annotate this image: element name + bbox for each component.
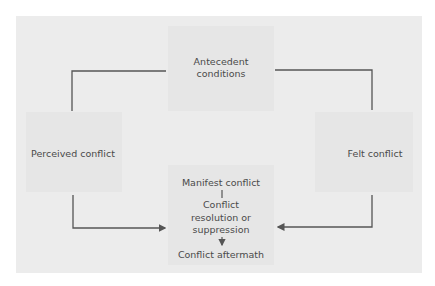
resolution-line1: Conflict <box>168 199 274 212</box>
node-antecedent-conditions: Antecedent conditions <box>168 56 274 80</box>
resolution-line2: resolution or <box>168 212 274 225</box>
edge-perceived-center <box>73 195 165 228</box>
edge-antecedent-perceived <box>72 71 166 111</box>
edge-felt-center <box>278 195 372 227</box>
node-manifest-conflict: Manifest conflict <box>168 177 274 189</box>
node-conflict-aftermath: Conflict aftermath <box>160 249 282 261</box>
node-felt-conflict: Felt conflict <box>325 148 425 160</box>
antecedent-line2: conditions <box>168 68 274 80</box>
edge-antecedent-felt <box>275 70 372 110</box>
connector-lines <box>0 0 435 286</box>
node-perceived-conflict: Perceived conflict <box>20 148 126 160</box>
resolution-line3: suppression <box>168 224 274 237</box>
node-conflict-resolution: Conflict resolution or suppression <box>168 199 274 237</box>
antecedent-line1: Antecedent <box>168 56 274 68</box>
